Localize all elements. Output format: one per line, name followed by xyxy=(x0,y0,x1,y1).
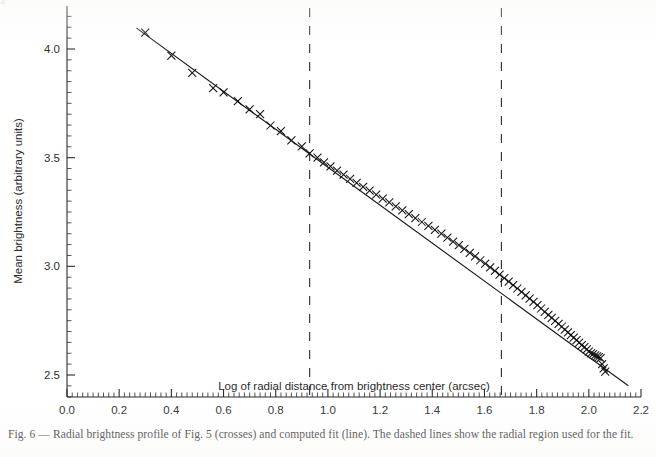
cross-marker xyxy=(256,110,264,118)
x-tick-label: 0.2 xyxy=(111,404,127,416)
cross-marker xyxy=(246,105,254,113)
cross-marker xyxy=(220,88,228,96)
cross-marker xyxy=(476,256,484,264)
y-tick-label: 4.0 xyxy=(44,43,60,55)
y-tick-label: 3.5 xyxy=(44,152,60,164)
cross-marker xyxy=(287,136,295,144)
radial-brightness-plot: 2.53.03.54.0 0.00.20.40.60.81.01.21.41.6… xyxy=(0,0,656,425)
x-tick-label: 1.8 xyxy=(529,404,545,416)
x-axis-tick-labels: 0.00.20.40.60.81.01.21.41.61.82.02.2 xyxy=(59,404,649,416)
y-tick-label: 3.0 xyxy=(44,260,60,272)
x-tick-label: 0.4 xyxy=(163,404,180,416)
cross-marker xyxy=(460,245,468,253)
figure-root: 3 2.53.03.54.0 0.00.20.40.60.81.01.21.41… xyxy=(0,0,656,457)
x-tick-label: 0.8 xyxy=(268,404,284,416)
cross-marker xyxy=(209,84,217,92)
cross-marker xyxy=(267,122,275,130)
figure-caption: Fig. 6 — Radial brightness profile of Fi… xyxy=(8,428,652,441)
cross-marker xyxy=(234,97,242,105)
x-tick-label: 0.6 xyxy=(216,404,232,416)
cross-marker xyxy=(486,263,494,271)
x-tick-label: 1.0 xyxy=(320,404,336,416)
cross-marker xyxy=(481,260,489,268)
x-tick-label: 2.0 xyxy=(581,404,597,416)
cross-marker xyxy=(496,271,504,279)
x-tick-label: 1.6 xyxy=(476,404,492,416)
computed-fit-line xyxy=(137,28,628,385)
x-tick-label: 2.2 xyxy=(633,404,649,416)
x-tick-label: 1.4 xyxy=(424,404,441,416)
cross-marker xyxy=(505,278,513,286)
x-axis-title: Log of radial distance from brightness c… xyxy=(218,380,490,392)
axes-group xyxy=(67,6,641,397)
cross-marker xyxy=(466,249,474,257)
y-tick-label: 2.5 xyxy=(44,369,60,381)
x-tick-label: 1.2 xyxy=(372,404,388,416)
cross-marker xyxy=(471,252,479,260)
x-tick-label: 0.0 xyxy=(59,404,75,416)
y-axis-title: Mean brightness (arbitrary units) xyxy=(12,118,24,284)
fit-region-guides xyxy=(310,8,502,396)
cross-marker xyxy=(188,69,196,77)
y-axis-tick-labels: 2.53.03.54.0 xyxy=(44,43,60,381)
cross-marker xyxy=(491,267,499,275)
y-axis-ticks xyxy=(67,16,75,396)
